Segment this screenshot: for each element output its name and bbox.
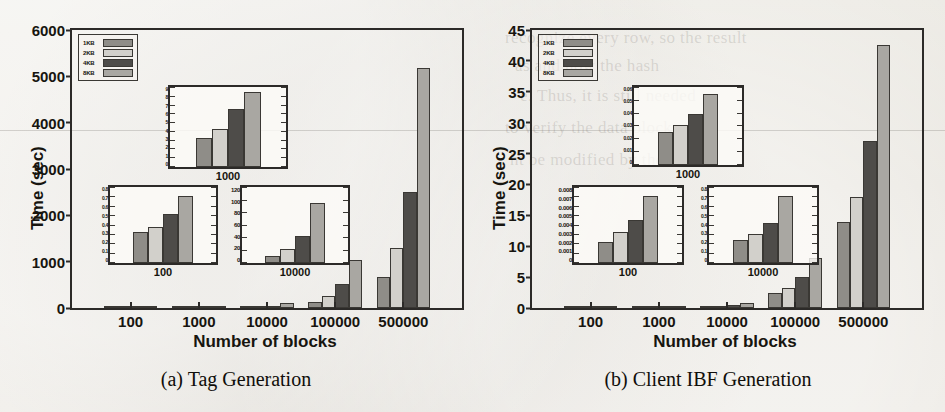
x-axis-tick: 10000 xyxy=(246,313,288,330)
x-axis-tick-mark xyxy=(658,302,660,308)
y-axis-label-b: Time (sec) xyxy=(490,146,510,230)
panel-client-ibf-generation: 1KB 2KB 4KB 8KB 051015202530354045100100… xyxy=(472,0,944,412)
inset-y-tick: 0.2 xyxy=(701,240,707,245)
x-axis-tick: 1000 xyxy=(642,313,675,330)
x-axis-tick-mark xyxy=(334,302,336,308)
inset-bar-0 xyxy=(733,240,748,263)
inset-y-tick: 0.008 xyxy=(558,187,572,193)
inset-y-tick: 20 xyxy=(234,245,240,251)
inset-y-tick: 0.1 xyxy=(102,249,108,254)
panel-tag-generation: 1KB 2KB 4KB 8KB 010002000300040005000600… xyxy=(0,0,472,412)
x-axis-label-b: Number of blocks xyxy=(530,332,920,352)
inset-y-tick: 0.4 xyxy=(701,223,707,228)
inset-y-tick: 100 xyxy=(231,199,240,205)
x-axis-tick-mark xyxy=(266,302,268,308)
inset-bar-1 xyxy=(212,129,228,167)
x-axis-tick: 10000 xyxy=(706,313,748,330)
inset-bar-2 xyxy=(228,109,244,167)
inset-bars xyxy=(133,192,192,263)
inset-bar-2 xyxy=(295,236,310,263)
y-axis-tick: 40 xyxy=(508,52,532,69)
inset-bar-3 xyxy=(310,203,325,263)
inset-bar-2 xyxy=(688,114,703,165)
inset-y-ticks: 020406080100120 xyxy=(231,187,242,263)
inset-1000-b: 00.010.020.030.040.050.06 1000 xyxy=(632,85,744,167)
x-axis-tick: 500000 xyxy=(838,313,888,330)
y-axis-tick: 45 xyxy=(508,22,532,39)
inset-bar-1 xyxy=(148,227,163,263)
inset-y-ticks: 00.10.20.30.40.50.60.70.8 xyxy=(701,187,709,263)
inset-100-b: 00.0010.0020.0030.0040.0050.0060.0070.00… xyxy=(572,185,684,265)
x-axis-tick-mark xyxy=(794,302,796,308)
inset-y-tick: 0.6 xyxy=(102,205,108,210)
inset-y-tick: 0 xyxy=(630,160,632,165)
inset-bar-1 xyxy=(613,232,628,263)
y-axis-tick: 4000 xyxy=(32,114,72,131)
inset-x-label: 100 xyxy=(619,266,637,278)
inset-y-tick: 0 xyxy=(569,257,572,263)
inset-y-tick: 9 xyxy=(166,87,168,92)
y-axis-tick: 0 xyxy=(57,300,72,317)
x-axis-tick-mark xyxy=(402,302,404,308)
ticks-layer-a: 0100020003000400050006000100100010000100… xyxy=(72,30,462,308)
inset-y-tick: 120 xyxy=(231,187,240,193)
inset-tickmarks-right xyxy=(281,87,286,167)
inset-y-tick: 0.01 xyxy=(623,148,632,153)
inset-y-tick: 8 xyxy=(166,95,168,100)
inset-bar-3 xyxy=(178,196,193,263)
inset-tickmarks-left xyxy=(170,87,175,167)
inset-y-tick: 1 xyxy=(166,154,168,159)
inset-y-tick: 0 xyxy=(705,258,707,263)
inset-tickmarks-right xyxy=(343,187,348,263)
inset-bar-0 xyxy=(196,138,212,167)
inset-y-tick: 0 xyxy=(237,257,240,263)
x-axis-tick: 100 xyxy=(118,313,143,330)
plot-area-a: 1KB 2KB 4KB 8KB 010002000300040005000600… xyxy=(70,28,464,310)
inset-bar-3 xyxy=(244,92,260,167)
inset-bar-2 xyxy=(628,220,643,263)
y-axis-tick: 5000 xyxy=(32,68,72,85)
inset-y-tick: 0.06 xyxy=(623,87,632,92)
inset-1000-a: 0123456789 1000 xyxy=(168,85,288,169)
x-axis-tick: 100000 xyxy=(310,313,360,330)
x-axis-tick: 500000 xyxy=(378,313,428,330)
y-axis-tick: 25 xyxy=(508,145,532,162)
plot-area-b: 1KB 2KB 4KB 8KB 051015202530354045100100… xyxy=(530,28,924,310)
x-axis-tick: 100 xyxy=(578,313,603,330)
inset-bar-3 xyxy=(778,196,793,263)
inset-y-tick: 7 xyxy=(166,104,168,109)
inset-y-ticks: 0123456789 xyxy=(166,87,170,167)
inset-y-tick: 0.3 xyxy=(701,231,707,236)
inset-y-tick: 0.7 xyxy=(701,196,707,201)
inset-y-tick: 40 xyxy=(234,234,240,240)
inset-y-tick: 0.02 xyxy=(623,136,632,141)
inset-bar-0 xyxy=(658,132,673,165)
x-axis-tick-mark xyxy=(198,302,200,308)
inset-bar-2 xyxy=(163,214,178,263)
inset-y-tick: 0.006 xyxy=(558,205,572,211)
inset-bars xyxy=(658,92,719,165)
x-axis-tick-mark xyxy=(590,302,592,308)
ticks-layer-b: 0510152025303540451001000100001000005000… xyxy=(532,30,922,308)
inset-y-tick: 0.5 xyxy=(701,214,707,219)
inset-y-tick: 0.005 xyxy=(558,213,572,219)
inset-y-tick: 0.05 xyxy=(623,99,632,104)
x-axis-tick-mark xyxy=(130,302,132,308)
inset-x-label: 10000 xyxy=(748,266,779,278)
y-axis-tick: 0 xyxy=(517,300,532,317)
inset-bar-0 xyxy=(598,242,613,263)
x-axis-tick-mark xyxy=(726,302,728,308)
inset-bar-2 xyxy=(763,223,778,263)
inset-y-tick: 0.03 xyxy=(623,123,632,128)
y-axis-tick: 10 xyxy=(508,238,532,255)
inset-100-a: 00.10.20.30.40.50.60.70.8 100 xyxy=(108,185,218,265)
y-axis-tick: 6000 xyxy=(32,22,72,39)
inset-y-tick: 0.004 xyxy=(558,222,572,228)
inset-bar-0 xyxy=(133,232,148,263)
y-axis-tick: 5 xyxy=(517,269,532,286)
inset-10000-b: 00.10.20.30.40.50.60.70.8 10000 xyxy=(707,185,819,265)
inset-bar-3 xyxy=(643,196,658,263)
inset-y-tick: 0.7 xyxy=(102,196,108,201)
inset-bars xyxy=(598,192,659,263)
y-axis-tick: 30 xyxy=(508,114,532,131)
